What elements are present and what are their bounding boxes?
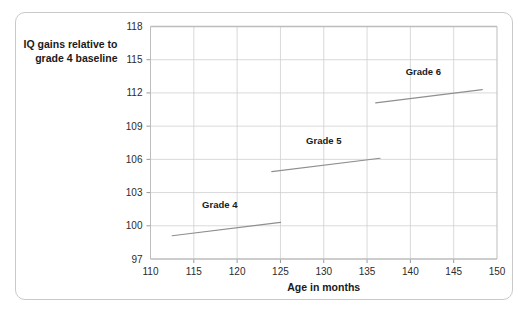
x-tick-label: 145 [445, 266, 462, 277]
y-tick-label: 106 [126, 154, 143, 165]
x-axis-tick-labels: 110115120125130135140145150 [143, 266, 506, 277]
tick-marks [147, 60, 454, 263]
x-tick-label: 150 [489, 266, 506, 277]
series-line-grade-6 [376, 90, 483, 103]
y-axis-title-line: IQ gains relative to [24, 38, 118, 50]
chart-figure: 97100103106109112115118 1101151201251301… [0, 0, 530, 311]
y-axis-tick-labels: 97100103106109112115118 [126, 21, 143, 265]
y-tick-label: 103 [126, 187, 143, 198]
x-tick-label: 110 [143, 266, 159, 277]
y-tick-label: 118 [127, 21, 143, 32]
x-tick-label: 140 [402, 266, 419, 277]
y-tick-label: 97 [131, 254, 143, 265]
y-tick-label: 112 [127, 87, 143, 98]
x-tick-label: 135 [359, 266, 376, 277]
x-tick-label: 115 [186, 266, 202, 277]
series-label-grade-4: Grade 4 [202, 199, 238, 210]
x-tick-label: 125 [272, 266, 289, 277]
series-annotations: Grade 4Grade 5Grade 6 [202, 66, 441, 210]
series-label-grade-5: Grade 5 [306, 135, 342, 146]
data-series [172, 90, 482, 236]
series-line-grade-5 [272, 158, 380, 171]
x-axis-title: Age in months [287, 281, 360, 293]
y-axis-title: IQ gains relative tograde 4 baseline [24, 38, 118, 64]
series-label-grade-6: Grade 6 [406, 66, 441, 77]
line-chart: 97100103106109112115118 1101151201251301… [0, 0, 530, 311]
series-line-grade-4 [172, 222, 280, 235]
y-axis-title-line: grade 4 baseline [35, 52, 117, 64]
y-tick-label: 109 [126, 121, 143, 132]
x-tick-label: 130 [315, 266, 332, 277]
y-tick-label: 100 [126, 220, 143, 231]
x-tick-label: 120 [229, 266, 246, 277]
y-tick-label: 115 [127, 54, 143, 65]
